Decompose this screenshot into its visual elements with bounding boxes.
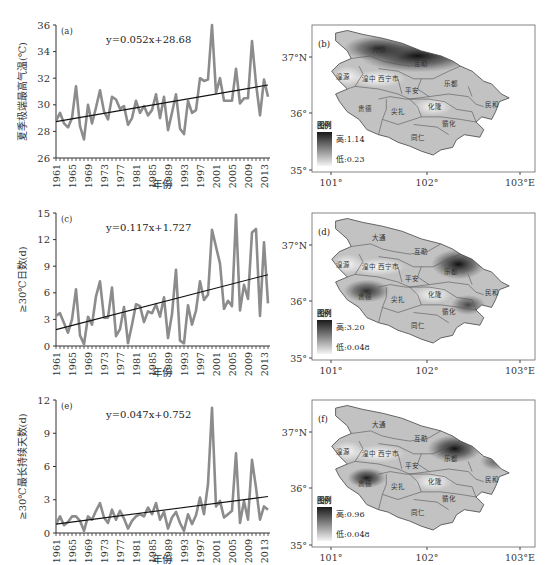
place-name: 西宁市 — [378, 262, 399, 271]
x-tick-label: 2005 — [227, 352, 238, 376]
legend-color-ramp — [317, 132, 332, 166]
longitude-label: 102° — [416, 552, 439, 563]
place-name: 贵德 — [358, 479, 372, 488]
y-tick-label: 30 — [37, 99, 50, 110]
trend-line — [56, 85, 268, 122]
longitude-label: 102° — [416, 177, 439, 188]
observed-series-line — [56, 215, 268, 344]
x-tick-label: 1961 — [51, 539, 62, 563]
legend-color-ramp — [317, 320, 332, 354]
trend-equation: y=0.052x+28.68 — [105, 34, 191, 45]
latitude-label: 35° — [290, 540, 307, 551]
place-name: 大通 — [372, 45, 386, 54]
x-tick-label: 2005 — [227, 164, 238, 188]
x-tick-label: 1969 — [83, 539, 94, 563]
latitude-label: 36° — [290, 296, 307, 307]
latitude-label: 35° — [290, 165, 307, 176]
legend-color-ramp — [317, 507, 332, 541]
place-name: 民和 — [485, 288, 499, 297]
place-name: 湟中 — [362, 449, 376, 458]
y-tick-label: 12 — [37, 395, 50, 406]
panel-label: (a) — [61, 26, 73, 36]
x-tick-label: 1969 — [83, 164, 94, 188]
x-tick-label: 1997 — [195, 352, 206, 376]
x-tick-label: 1965 — [67, 539, 78, 563]
place-name: 湟源 — [336, 260, 350, 269]
map-f: 大通互助湟源湟中西宁市平安乐都民和贵德尖扎化隆循化同仁(f)37°N36°35°… — [280, 375, 555, 565]
place-name: 同仁 — [411, 133, 425, 142]
x-tick-label: 2013 — [259, 352, 270, 376]
place-name: 化隆 — [428, 102, 442, 111]
x-tick-label: 1977 — [115, 164, 126, 188]
place-name: 平安 — [405, 461, 419, 470]
place-name: 乐都 — [444, 79, 458, 88]
latitude-label: 37°N — [282, 427, 307, 438]
x-tick-label: 1993 — [179, 539, 190, 563]
place-name: 互助 — [414, 434, 428, 443]
x-tick-label: 2009 — [243, 352, 254, 376]
legend-low-label: 低:0.23 — [336, 154, 365, 164]
place-name: 化隆 — [428, 477, 442, 486]
place-name: 大通 — [372, 420, 386, 429]
legend-low-label: 低:0.048 — [336, 342, 370, 352]
x-tick-label: 1961 — [51, 164, 62, 188]
map-d: 大通互助湟源湟中西宁市平安乐都民和贵德尖扎化隆循化同仁(d)37°N36°35°… — [280, 188, 555, 378]
x-tick-label: 2001 — [211, 164, 222, 188]
x-tick-label: 2013 — [259, 164, 270, 188]
place-name: 民和 — [485, 100, 499, 109]
panel-label: (e) — [61, 401, 73, 411]
latitude-label: 35° — [290, 353, 307, 364]
x-tick-label: 1961 — [51, 352, 62, 376]
chart-c: 0369121519611965196919731977198119851989… — [0, 188, 280, 378]
panel-label: (f) — [318, 414, 328, 424]
x-tick-label: 1993 — [179, 164, 190, 188]
panel-label: (b) — [318, 39, 330, 49]
place-name: 民和 — [485, 475, 499, 484]
map-b: 大通互助湟源湟中西宁市平安乐都民和贵德尖扎化隆循化同仁(b)37°N36°35°… — [280, 0, 555, 190]
x-tick-label: 1973 — [99, 352, 110, 376]
place-name: 循化 — [442, 307, 456, 316]
y-axis-title: ≥30℃日数(d) — [16, 246, 28, 313]
place-name: 贵德 — [358, 104, 372, 113]
place-name: 同仁 — [411, 508, 425, 517]
place-name: 平安 — [405, 274, 419, 283]
legend-title: 图例 — [317, 495, 332, 505]
longitude-label: 103°E — [505, 177, 535, 188]
x-tick-label: 1977 — [115, 539, 126, 563]
place-name: 湟源 — [336, 447, 350, 456]
legend-title: 图例 — [317, 308, 332, 318]
place-name: 循化 — [442, 119, 456, 128]
place-name: 湟源 — [336, 72, 350, 81]
latitude-label: 37°N — [282, 240, 307, 251]
y-axis-title: ≥30℃最长持续天数(d) — [16, 413, 28, 520]
panel-label: (c) — [61, 214, 72, 224]
place-name: 化隆 — [428, 290, 442, 299]
trend-line — [56, 275, 268, 330]
place-name: 循化 — [442, 494, 456, 503]
longitude-label: 101° — [320, 177, 343, 188]
place-name: 尖扎 — [391, 295, 405, 304]
chart-e: 0369121961196519691973197719811985198919… — [0, 375, 280, 565]
y-tick-label: 12 — [37, 234, 50, 245]
x-tick-label: 2009 — [243, 539, 254, 563]
trend-line — [56, 497, 268, 525]
legend-high-label: 高:1.14 — [336, 134, 365, 144]
place-name: 尖扎 — [391, 107, 405, 116]
x-tick-label: 2005 — [227, 539, 238, 563]
y-tick-label: 26 — [37, 153, 50, 164]
x-tick-label: 2001 — [211, 352, 222, 376]
x-tick-label: 1973 — [99, 539, 110, 563]
longitude-label: 103°E — [505, 552, 535, 563]
x-tick-label: 1977 — [115, 352, 126, 376]
y-tick-label: 0 — [44, 528, 50, 539]
y-tick-label: 9 — [44, 428, 50, 439]
y-tick-label: 9 — [44, 261, 50, 272]
y-tick-label: 32 — [37, 73, 50, 84]
latitude-label: 36° — [290, 108, 307, 119]
observed-series-line — [56, 408, 268, 531]
x-tick-label: 1981 — [131, 539, 142, 563]
x-tick-label: 1993 — [179, 352, 190, 376]
place-name: 互助 — [414, 247, 428, 256]
x-tick-label: 1969 — [83, 352, 94, 376]
legend-high-label: 高:3.20 — [336, 322, 365, 332]
